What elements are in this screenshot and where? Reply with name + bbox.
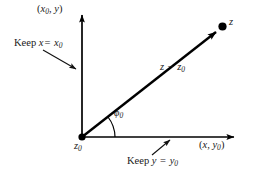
- vertical-axis-label: (x0, y): [37, 4, 62, 16]
- vector-label: z − z0: [160, 62, 185, 74]
- vector-arrow: [82, 32, 216, 137]
- point-z-label: z: [229, 17, 233, 28]
- keep-x-annotation: Keep x= x0: [14, 38, 62, 50]
- keep-y-annotation: Keep y = y0: [127, 156, 178, 168]
- point-z-dot: [218, 22, 226, 30]
- point-z0-dot: [78, 133, 85, 140]
- angle-arc: [108, 117, 115, 137]
- keep-x-leader-arrow: [43, 50, 76, 69]
- keep-y-leader-arrow: [152, 140, 170, 155]
- horizontal-axis-label: (x, y0): [199, 140, 224, 152]
- point-z0-label: z0: [74, 141, 82, 153]
- angle-phi0-label: ϕ0: [114, 108, 123, 120]
